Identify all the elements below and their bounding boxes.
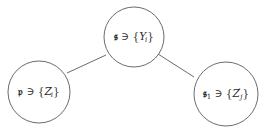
node-label-s: 𝔰 ∋ {Yi} <box>114 31 154 44</box>
contains-relation: ∋ <box>27 85 35 97</box>
contains-relation: ∋ <box>121 30 129 42</box>
tree-diagram: 𝔰 ∋ {Yi} 𝔭 ∋ {Zi} 𝔰1 ∋ {Z′j} <box>0 0 266 136</box>
set-close-brace: } <box>53 85 60 97</box>
set-close-brace: } <box>147 30 154 42</box>
edge-s-to-s1 <box>158 54 194 77</box>
node-label-s1: 𝔰1 ∋ {Z′j} <box>203 88 249 101</box>
fraktur-symbol: 𝔭 <box>18 86 23 97</box>
fraktur-symbol: 𝔰 <box>114 31 118 42</box>
edge-s-to-p <box>67 55 106 73</box>
symbol-subscript: 1 <box>207 93 211 101</box>
set-open-brace: { <box>226 87 233 99</box>
node-label-p: 𝔭 ∋ {Zi} <box>18 86 59 99</box>
set-close-brace: } <box>243 87 250 99</box>
contains-relation: ∋ <box>215 87 223 99</box>
diagram-graphics <box>0 0 266 136</box>
